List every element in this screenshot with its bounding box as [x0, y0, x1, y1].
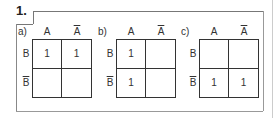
- row-header-not-b: B: [105, 77, 115, 89]
- col-header-a: A: [32, 26, 62, 38]
- cell-not-a-not-b: [62, 69, 91, 98]
- frame-bottom: [16, 111, 263, 112]
- kmap-grid: 1 1: [116, 39, 176, 98]
- cell-a-not-b: 1: [117, 69, 146, 98]
- row-header-not-b: B: [188, 77, 198, 89]
- cell-not-a-not-b: [146, 69, 175, 98]
- frame-tab-horizontal: [16, 24, 33, 25]
- row-header-b: B: [105, 48, 115, 60]
- cell-not-a-b: [146, 40, 175, 69]
- cell-ab: [200, 40, 229, 69]
- karnaugh-map-c: c) A A B B 1 1: [181, 26, 261, 102]
- cell-not-a-not-b: 1: [229, 69, 258, 98]
- kmap-grid: 1 1: [199, 39, 259, 98]
- col-header-not-a: A: [146, 26, 176, 38]
- cell-ab: 1: [33, 40, 62, 69]
- col-header-not-a: A: [229, 26, 259, 38]
- page-edge-line: [272, 0, 273, 118]
- col-header-a: A: [199, 26, 229, 38]
- karnaugh-map-a: a) A A B B 1 1: [14, 26, 94, 102]
- cell-a-not-b: 1: [200, 69, 229, 98]
- cell-not-a-b: 1: [62, 40, 91, 69]
- frame-top: [33, 11, 263, 12]
- row-header-b: B: [188, 48, 198, 60]
- cell-a-not-b: [33, 69, 62, 98]
- row-header-not-b: B: [21, 77, 31, 89]
- map-label: b): [98, 26, 107, 38]
- cell-ab: 1: [117, 40, 146, 69]
- col-header-a: A: [116, 26, 146, 38]
- problem-number: 1.: [16, 3, 27, 18]
- map-label: c): [181, 26, 189, 38]
- frame-tab-vertical: [33, 11, 34, 24]
- cell-not-a-b: [229, 40, 258, 69]
- col-header-not-a: A: [62, 26, 92, 38]
- frame-right: [263, 11, 264, 111]
- map-label: a): [18, 26, 27, 38]
- kmap-grid: 1 1: [32, 39, 92, 98]
- karnaugh-map-b: b) A A B B 1 1: [98, 26, 178, 102]
- row-header-b: B: [21, 48, 31, 60]
